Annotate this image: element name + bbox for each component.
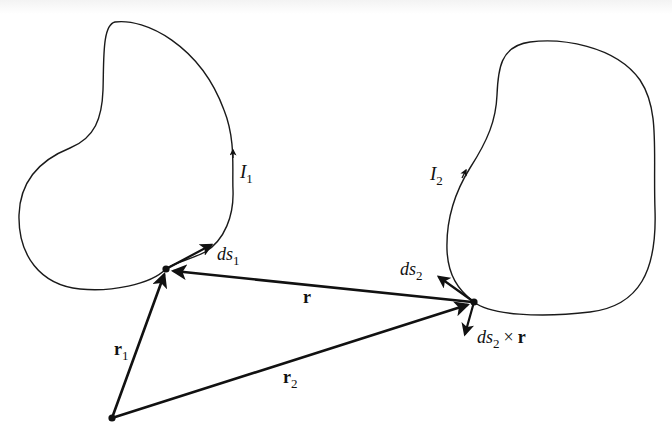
point-2: [470, 298, 477, 305]
vector-r: [174, 271, 472, 302]
vector-r2: [112, 305, 467, 418]
label-r: r: [303, 287, 311, 307]
label-I1: I1: [239, 161, 253, 186]
origin-point: [108, 414, 115, 421]
label-ds2: ds2: [400, 259, 423, 283]
label-ds1: ds1: [217, 244, 240, 268]
label-ds2-cross-r: ds2×r: [477, 327, 526, 351]
loop-2: [447, 41, 655, 315]
vector-ds1: [166, 245, 211, 269]
label-r2: r2: [283, 367, 298, 391]
label-I2: I2: [429, 163, 443, 188]
current-loops-diagram: I1 I2 ds1 ds2 r r1 r2 ds2×r: [0, 0, 672, 436]
vector-ds2-cross-r: [465, 302, 474, 334]
point-1: [162, 265, 169, 272]
label-r1: r1: [114, 339, 129, 363]
